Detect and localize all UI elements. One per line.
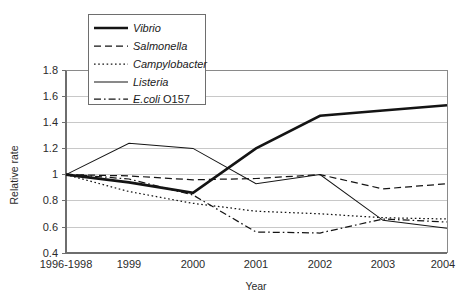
x-tick-labels: 1996-1998 1999 2000 2001 2002 2003 2004 — [40, 258, 456, 270]
legend: Vibrio Salmonella Campylobacter Listeria… — [89, 15, 209, 106]
y-axis-title: Relative rate — [8, 145, 20, 204]
y-tick-label: 0.8 — [43, 194, 58, 206]
legend-label: E.coli O157 — [133, 93, 190, 105]
x-tick-label: 2000 — [181, 258, 205, 270]
series-line-listeria — [66, 143, 447, 228]
y-tick-label: 1.2 — [43, 142, 58, 154]
y-tickmarks — [62, 70, 66, 253]
legend-label: Campylobacter — [133, 58, 208, 70]
y-tick-label: 1 — [52, 168, 58, 180]
y-tick-label: 1.6 — [43, 90, 58, 102]
chart-container: 1.8 1.6 1.4 1.2 1 0.8 0.6 0.4 1996-1998 … — [0, 0, 470, 301]
series-line-vibrio — [66, 105, 447, 193]
legend-label: Listeria — [133, 76, 168, 88]
x-tick-label: 1999 — [117, 258, 141, 270]
x-tick-label: 2003 — [371, 258, 395, 270]
x-tick-label: 2002 — [308, 258, 332, 270]
legend-label: Vibrio — [133, 22, 161, 34]
x-tick-label: 1996-1998 — [40, 258, 93, 270]
legend-label-italic-part: E.coli — [133, 93, 163, 105]
x-tick-label: 2004 — [431, 258, 455, 270]
line-chart: 1.8 1.6 1.4 1.2 1 0.8 0.6 0.4 1996-1998 … — [0, 0, 470, 301]
x-tick-label: 2001 — [244, 258, 268, 270]
y-tick-labels: 1.8 1.6 1.4 1.2 1 0.8 0.6 0.4 — [43, 64, 58, 259]
y-tick-label: 1.8 — [43, 64, 58, 76]
legend-label-upright-part: O157 — [163, 93, 190, 105]
series-group — [66, 105, 447, 233]
y-tick-label: 0.6 — [43, 221, 58, 233]
y-tick-label: 1.4 — [43, 116, 58, 128]
legend-label: Salmonella — [133, 40, 187, 52]
x-axis-title: Year — [245, 280, 267, 292]
